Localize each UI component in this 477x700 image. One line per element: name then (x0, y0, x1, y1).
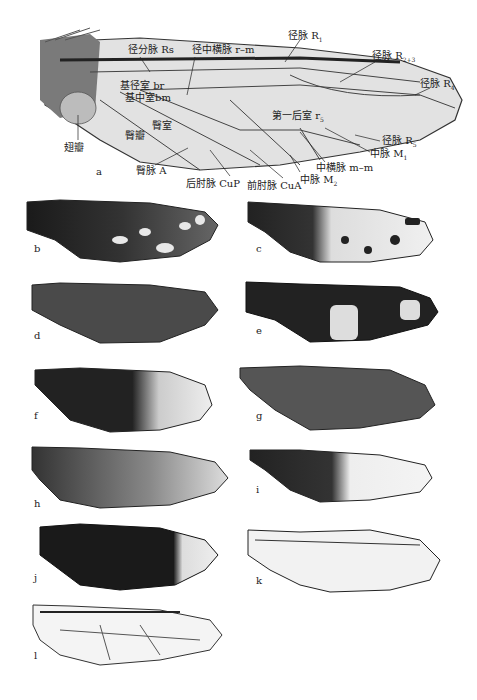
panel-letter-g: g (256, 410, 262, 421)
wing-panels-drawing (0, 0, 477, 700)
panel-letter-i: i (256, 484, 259, 495)
panel-letter-d: d (34, 330, 40, 341)
panel-letter-e: e (256, 325, 262, 336)
panel-letter-f: f (34, 410, 38, 421)
panel-letter-c: c (256, 243, 262, 254)
panel-letter-j: j (34, 572, 37, 583)
panel-letter-b: b (34, 243, 40, 254)
panel-letter-l: l (34, 650, 37, 661)
panel-letter-h: h (34, 498, 40, 509)
panel-letter-k: k (256, 575, 262, 586)
